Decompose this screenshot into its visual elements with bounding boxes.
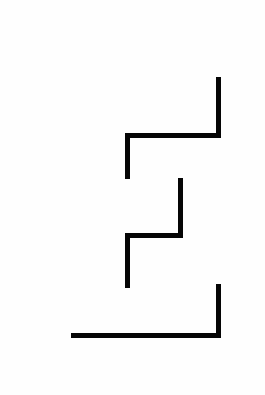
drawing-canvas xyxy=(0,0,265,395)
line-drawing-svg xyxy=(0,0,265,395)
